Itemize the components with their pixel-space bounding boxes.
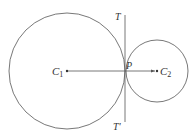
center-point-c2 xyxy=(156,70,158,72)
label-c1: C1 xyxy=(52,65,63,79)
label-point-p: P xyxy=(125,60,132,71)
label-c2: C2 xyxy=(160,65,171,79)
label-tangent-top: T xyxy=(115,11,122,22)
center-point-c1 xyxy=(66,70,68,72)
tangent-circles-diagram: C1 C2 P T T' xyxy=(0,0,192,139)
label-tangent-bottom: T' xyxy=(113,121,122,132)
